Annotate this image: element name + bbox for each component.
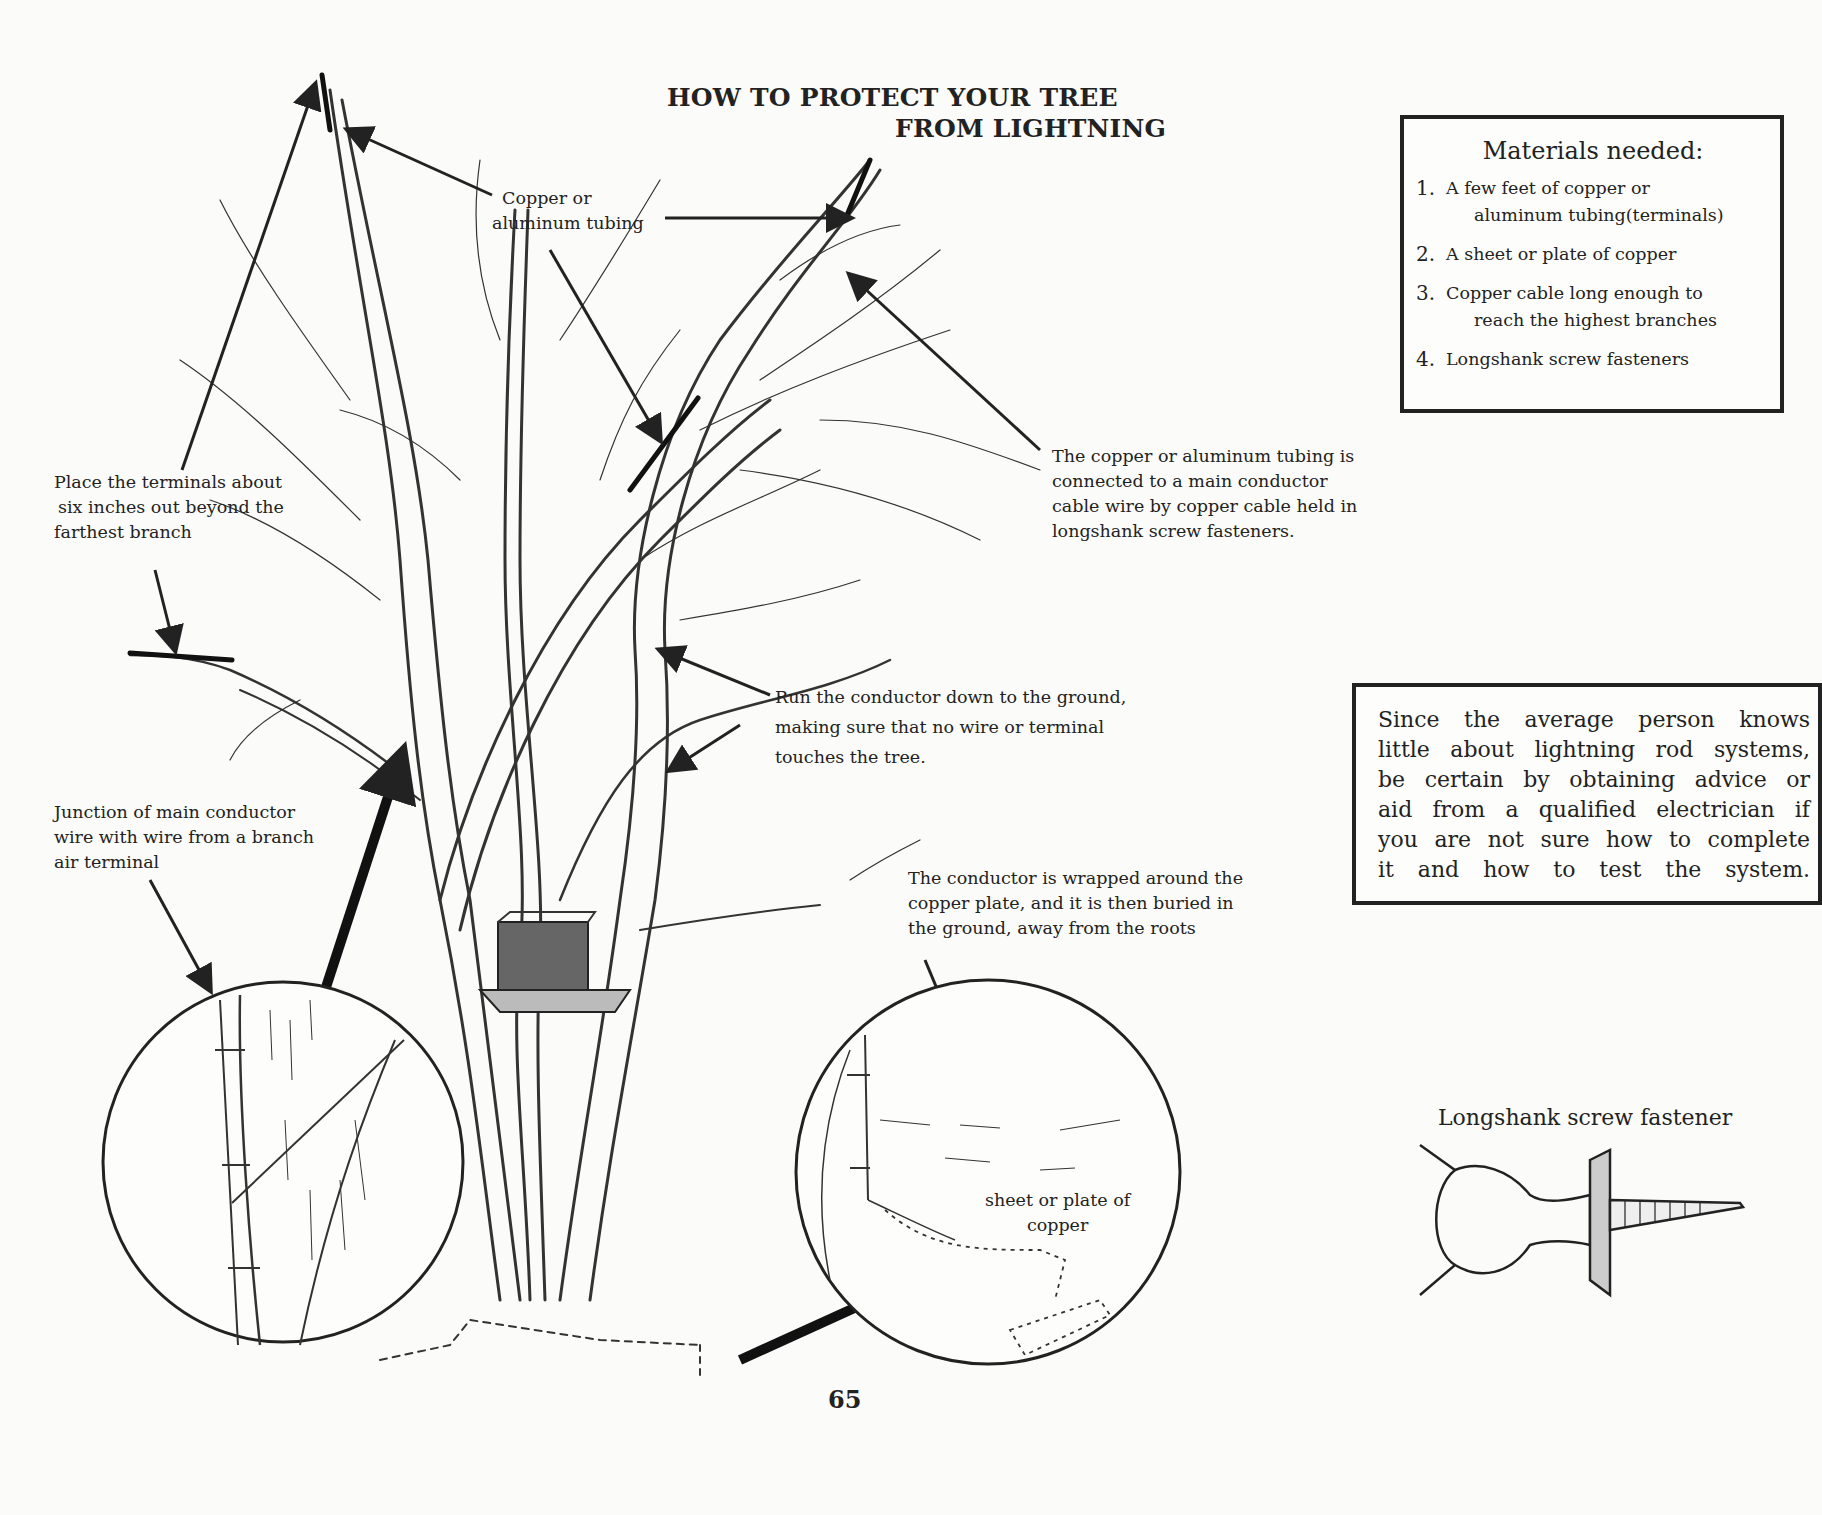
materials-item-text: A few feet of copper or	[1446, 178, 1650, 198]
callout-terminals-line: Place the terminals about	[54, 470, 284, 495]
materials-item-text: Copper cable long enough to	[1446, 283, 1703, 303]
callout-tubing-line: Copper or	[492, 186, 644, 211]
callout-junction-line: Junction of main conductor	[54, 800, 314, 825]
advice-line: aid from a qualified electrician if	[1378, 795, 1810, 825]
callout-connected-line: The copper or aluminum tubing is	[1052, 444, 1357, 469]
page-title: HOW TO PROTECT YOUR TREE FROM LIGHTNING	[667, 82, 1166, 144]
title-line-1: HOW TO PROTECT YOUR TREE	[667, 83, 1118, 112]
advice-line: you are not sure how to complete	[1378, 825, 1810, 855]
materials-item-text: Longshank screw fasteners	[1446, 349, 1689, 369]
materials-item: 1. A few feet of copper or aluminum tubi…	[1416, 175, 1770, 229]
materials-item-text-continued: reach the highest branches	[1446, 307, 1770, 334]
callout-tubing-line: aluminum tubing	[492, 211, 644, 236]
materials-box: Materials needed: 1. A few feet of coppe…	[1400, 115, 1784, 413]
callout-run-conductor-line: touches the tree.	[775, 742, 1126, 772]
materials-item-number: 3.	[1416, 280, 1446, 334]
materials-item: 2. A sheet or plate of copper	[1416, 241, 1770, 268]
callout-connected: The copper or aluminum tubing is connect…	[1052, 444, 1357, 544]
advice-line: Since the average person knows	[1378, 705, 1810, 735]
materials-heading: Materials needed:	[1416, 135, 1770, 167]
callout-run-conductor: Run the conductor down to the ground, ma…	[775, 682, 1126, 772]
callout-junction: Junction of main conductor wire with wir…	[54, 800, 314, 875]
materials-item-number: 2.	[1416, 241, 1446, 268]
title-line-2: FROM LIGHTNING	[667, 113, 1166, 144]
callout-terminals: Place the terminals about six inches out…	[54, 470, 284, 545]
callout-wrapped: The conductor is wrapped around the copp…	[908, 866, 1243, 941]
callout-plate-line: copper	[985, 1213, 1130, 1238]
callout-plate-line: sheet or plate of	[985, 1188, 1130, 1213]
advice-line: little about lightning rod systems,	[1378, 735, 1810, 765]
callout-wrapped-line: The conductor is wrapped around the	[908, 866, 1243, 891]
callout-terminals-line: six inches out beyond the	[54, 495, 284, 520]
callout-terminals-line: farthest branch	[54, 520, 284, 545]
advice-line: be certain by obtaining advice or	[1378, 765, 1810, 795]
advice-text: Since the average person knows little ab…	[1378, 705, 1810, 885]
callout-junction-line: air terminal	[54, 850, 314, 875]
callout-connected-line: longshank screw fasteners.	[1052, 519, 1357, 544]
materials-item-number: 1.	[1416, 175, 1446, 229]
materials-item-text-continued: aluminum tubing(terminals)	[1446, 202, 1770, 229]
materials-item-number: 4.	[1416, 346, 1446, 373]
callout-connected-line: cable wire by copper cable held in	[1052, 494, 1357, 519]
callout-junction-line: wire with wire from a branch	[54, 825, 314, 850]
callout-run-conductor-line: Run the conductor down to the ground,	[775, 682, 1126, 712]
advice-box: Since the average person knows little ab…	[1352, 683, 1822, 905]
materials-item: 4. Longshank screw fasteners	[1416, 346, 1770, 373]
callout-wrapped-line: the ground, away from the roots	[908, 916, 1243, 941]
page-number: 65	[828, 1385, 861, 1414]
callout-connected-line: connected to a main conductor	[1052, 469, 1357, 494]
fastener-label: Longshank screw fastener	[1438, 1105, 1732, 1130]
callout-wrapped-line: copper plate, and it is then buried in	[908, 891, 1243, 916]
callout-run-conductor-line: making sure that no wire or terminal	[775, 712, 1126, 742]
advice-line: it and how to test the system.	[1378, 855, 1810, 885]
materials-item: 3. Copper cable long enough to reach the…	[1416, 280, 1770, 334]
materials-item-text: A sheet or plate of copper	[1446, 244, 1676, 264]
callout-plate: sheet or plate of copper	[985, 1188, 1130, 1238]
callout-tubing: Copper or aluminum tubing	[492, 186, 644, 236]
